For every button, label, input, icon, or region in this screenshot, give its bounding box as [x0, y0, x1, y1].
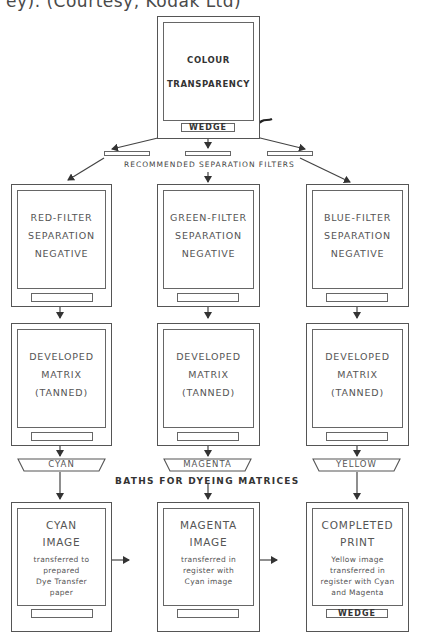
wedge-strip: WEDGE: [181, 123, 235, 132]
blank-strip: [31, 293, 93, 302]
image-title: CYAN: [46, 517, 77, 534]
source-title-line2: TRANSPARENCY: [167, 79, 250, 89]
matrix-text: (TANNED): [331, 384, 384, 402]
neg-text: NEGATIVE: [35, 245, 89, 263]
bath-yellow: YELLOW: [312, 458, 401, 472]
neg-text: NEGATIVE: [182, 245, 236, 263]
blank-strip: [177, 293, 239, 302]
bath-label: YELLOW: [312, 459, 401, 469]
bath-label: MAGENTA: [163, 459, 252, 469]
image-desc: prepared: [43, 565, 79, 576]
magenta-image-card: MAGENTA IMAGE transferred in register wi…: [157, 502, 260, 632]
baths-label: BATHS FOR DYEING MATRICES: [115, 476, 300, 486]
yellow-matrix-card: DEVELOPED MATRIX (TANNED): [306, 323, 409, 446]
wedge-label: WEDGE: [189, 123, 227, 132]
blank-strip: [326, 293, 388, 302]
green-filter-negative-card: GREEN-FILTER SEPARATION NEGATIVE: [157, 184, 260, 307]
neg-text: NEGATIVE: [331, 245, 385, 263]
image-title: IMAGE: [190, 534, 228, 551]
source-title-line1: COLOUR: [187, 55, 230, 65]
image-desc: transferred in: [181, 554, 236, 565]
filter-blue: [267, 151, 313, 156]
matrix-text: MATRIX: [41, 366, 81, 384]
image-desc: Dye Transfer: [36, 576, 87, 587]
blank-strip: [31, 432, 93, 441]
image-title: COMPLETED: [322, 517, 394, 534]
neg-text: RED-FILTER: [30, 209, 92, 227]
bath-cyan: CYAN: [17, 458, 106, 472]
separation-filters-label: RECOMMENDED SEPARATION FILTERS: [124, 160, 295, 169]
blank-strip: [31, 609, 93, 618]
cyan-image-card: CYAN IMAGE transferred to prepared Dye T…: [11, 502, 112, 632]
matrix-text: DEVELOPED: [29, 348, 94, 366]
matrix-text: DEVELOPED: [325, 348, 390, 366]
red-filter-negative-card: RED-FILTER SEPARATION NEGATIVE: [11, 184, 112, 307]
image-title: PRINT: [340, 534, 375, 551]
neg-text: SEPARATION: [28, 227, 95, 245]
matrix-text: MATRIX: [337, 366, 377, 384]
neg-text: BLUE-FILTER: [324, 209, 391, 227]
wedge-strip: WEDGE: [326, 609, 388, 618]
image-desc: Yellow image: [331, 554, 383, 565]
matrix-text: (TANNED): [182, 384, 235, 402]
image-desc: transferred in: [330, 565, 385, 576]
image-title: IMAGE: [43, 534, 81, 551]
bath-magenta: MAGENTA: [163, 458, 252, 472]
neg-text: SEPARATION: [324, 227, 391, 245]
neg-text: GREEN-FILTER: [170, 209, 247, 227]
neg-text: SEPARATION: [175, 227, 242, 245]
cyan-matrix-card: DEVELOPED MATRIX (TANNED): [11, 323, 112, 446]
magenta-matrix-card: DEVELOPED MATRIX (TANNED): [157, 323, 260, 446]
matrix-text: (TANNED): [35, 384, 88, 402]
image-title: MAGENTA: [180, 517, 237, 534]
blank-strip: [177, 609, 239, 618]
completed-print-card: COMPLETED PRINT Yellow image transferred…: [306, 502, 409, 632]
filter-red: [104, 151, 150, 156]
image-desc: register with: [183, 565, 234, 576]
wedge-label: WEDGE: [338, 609, 376, 618]
image-desc: and Magenta: [331, 587, 384, 598]
blank-strip: [177, 432, 239, 441]
image-desc: Cyan image: [185, 576, 233, 587]
bath-label: CYAN: [17, 459, 106, 469]
matrix-text: DEVELOPED: [176, 348, 241, 366]
blue-filter-negative-card: BLUE-FILTER SEPARATION NEGATIVE: [306, 184, 409, 307]
blank-strip: [326, 432, 388, 441]
image-desc: register with Cyan: [320, 576, 394, 587]
image-desc: transferred to: [34, 554, 90, 565]
filter-green: [185, 151, 231, 156]
matrix-text: MATRIX: [188, 366, 228, 384]
colour-transparency-card: COLOUR TRANSPARENCY WEDGE: [157, 16, 260, 139]
image-desc: paper: [50, 587, 73, 598]
